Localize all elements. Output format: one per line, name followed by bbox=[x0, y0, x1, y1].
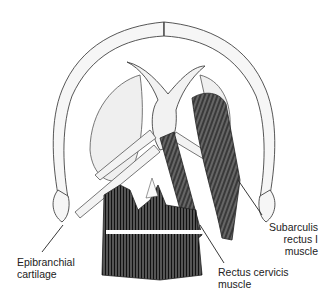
label-line: rectus I bbox=[258, 233, 318, 245]
label-line: Rectus cervicis bbox=[218, 266, 289, 278]
label-line: Subarculis bbox=[258, 221, 318, 233]
label-subarculis-rectus: Subarculis rectus I muscle bbox=[258, 221, 318, 257]
label-line: cartilage bbox=[17, 268, 75, 280]
label-rectus-cervicis: Rectus cervicis muscle bbox=[218, 266, 289, 290]
leader-epibranchial bbox=[42, 225, 63, 252]
label-line: Epibranchial bbox=[17, 256, 75, 268]
subarculis-muscle bbox=[192, 93, 240, 240]
label-line: muscle bbox=[258, 245, 318, 257]
leader-subarculis bbox=[238, 180, 262, 215]
label-epibranchial-cartilage: Epibranchial cartilage bbox=[17, 256, 75, 280]
label-line: muscle bbox=[218, 278, 289, 290]
